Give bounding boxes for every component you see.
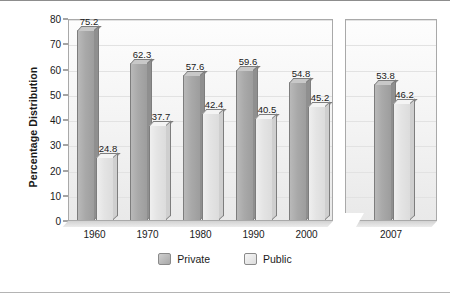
- bar-public: [255, 118, 273, 220]
- gridline: [346, 45, 436, 46]
- y-tick-label: 20: [50, 165, 61, 176]
- bar-value-label: 46.2: [395, 89, 414, 100]
- chart-figure: Percentage Distribution 0102030405060708…: [0, 0, 450, 293]
- y-tick-label: 60: [50, 64, 61, 75]
- bar-side-face: [113, 153, 118, 220]
- panel-floor: [63, 221, 333, 227]
- bar-private: [130, 63, 148, 220]
- bar-public: [149, 125, 167, 220]
- bar-value-label: 42.4: [205, 99, 224, 110]
- legend-label: Private: [177, 253, 210, 265]
- bar-side-face: [410, 99, 415, 220]
- bar-value-label: 57.6: [186, 61, 205, 72]
- bar-side-face: [272, 113, 277, 220]
- bar-value-label: 62.3: [133, 49, 152, 60]
- x-tick-label: 2007: [380, 229, 402, 240]
- x-tick-label: 1970: [136, 229, 158, 240]
- y-tick-label: 70: [50, 39, 61, 50]
- bar-side-face: [166, 120, 171, 220]
- y-tick-label: 80: [50, 14, 61, 25]
- bar-value-label: 54.8: [292, 68, 311, 79]
- bar-value-label: 53.8: [376, 70, 395, 81]
- bar-value-label: 37.7: [152, 111, 171, 122]
- x-tick-label: 1980: [189, 229, 211, 240]
- bar-value-label: 40.5: [258, 104, 277, 115]
- bar-value-label: 24.8: [99, 143, 118, 154]
- legend-item-private[interactable]: Private: [158, 253, 210, 265]
- chart-plot-panel-2007: 53.846.2: [345, 19, 437, 221]
- y-tick-label: 40: [50, 115, 61, 126]
- legend-swatch-public: [244, 253, 257, 265]
- chart-legend: PrivatePublic: [0, 253, 450, 265]
- x-tick-label: 2000: [295, 229, 317, 240]
- chart-plot-panel-main: 75.224.862.337.757.642.459.640.554.845.2: [68, 19, 333, 221]
- gridline: [346, 20, 436, 21]
- bar-private: [77, 30, 95, 220]
- bar-value-label: 45.2: [311, 92, 330, 103]
- gridline: [69, 20, 332, 21]
- bar-public: [202, 113, 220, 220]
- y-tick-label: 10: [50, 190, 61, 201]
- bar-public: [393, 103, 411, 220]
- y-tick-label: 30: [50, 140, 61, 151]
- gridline: [69, 45, 332, 46]
- x-tick-label: 1990: [242, 229, 264, 240]
- y-tick-label: 0: [55, 216, 61, 227]
- bar-side-face: [325, 101, 330, 220]
- bar-private: [374, 84, 392, 220]
- bar-public: [308, 106, 326, 220]
- bar-private: [183, 75, 201, 220]
- legend-swatch-private: [158, 253, 171, 265]
- bar-value-label: 75.2: [80, 16, 99, 27]
- bar-private: [289, 82, 307, 220]
- bar-value-label: 59.6: [239, 56, 258, 67]
- bar-side-face: [219, 108, 224, 220]
- legend-item-public[interactable]: Public: [244, 253, 292, 265]
- legend-label: Public: [263, 253, 292, 265]
- y-axis: 01020304050607080: [30, 19, 68, 221]
- bar-public: [96, 157, 114, 220]
- bar-private: [236, 70, 254, 220]
- x-tick-label: 1960: [83, 229, 105, 240]
- y-tick-label: 50: [50, 89, 61, 100]
